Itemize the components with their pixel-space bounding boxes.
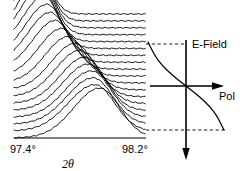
x-axis-name-label: 2θ <box>62 157 74 171</box>
x-tick-label-right: 98.2° <box>122 143 148 155</box>
figure-canvas: 97.4° 98.2° 2θ E-Field Pol <box>0 0 247 171</box>
diffraction-efield-figure: 97.4° 98.2° 2θ E-Field Pol <box>0 0 247 171</box>
x-tick-label-left: 97.4° <box>10 143 36 155</box>
efield-axis-label: E-Field <box>192 38 227 50</box>
pol-axis-label: Pol <box>219 90 235 102</box>
